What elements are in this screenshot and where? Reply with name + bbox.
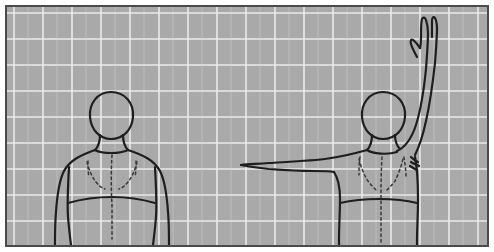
figure-right-posterior-torso <box>241 17 437 245</box>
illustration-plate <box>5 5 489 247</box>
anatomical-line-drawing <box>7 7 487 245</box>
figure-panel: Posterior view of trunk: scapular motion… <box>0 0 494 252</box>
